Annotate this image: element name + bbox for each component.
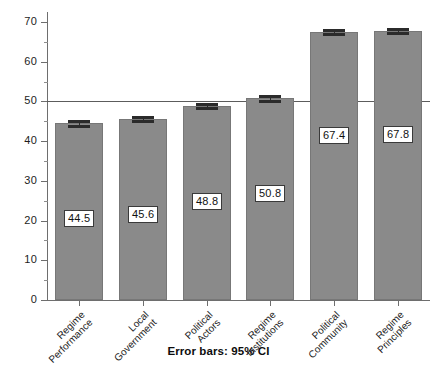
x-category-label-political-community: PoliticalCommunity [270, 309, 349, 370]
error-bar-cap-1-upper [132, 116, 154, 119]
x-tick-0 [79, 300, 80, 306]
error-bars-note: Error bars: 95% CI [0, 345, 437, 357]
value-label-5: 67.8 [383, 126, 413, 143]
value-label-3: 50.8 [255, 185, 285, 202]
y-tick-label-60: 60 [3, 56, 37, 67]
x-category-label-political-actors: PoliticalActors [143, 309, 222, 370]
error-bar-cap-2-upper [196, 103, 218, 106]
error-bar-cap-1-lower [132, 120, 154, 123]
x-tick-1 [143, 300, 144, 306]
y-tick-label-70: 70 [3, 16, 37, 27]
y-minor-tick-15 [44, 240, 48, 241]
y-tick-30 [41, 181, 48, 182]
y-minor-tick-5 [44, 280, 48, 281]
value-label-0: 44.5 [64, 210, 94, 227]
y-tick-label-50: 50 [3, 95, 37, 106]
category-label-line2: Actors [151, 317, 222, 370]
y-minor-tick-65 [44, 42, 48, 43]
y-tick-20 [41, 221, 48, 222]
y-axis-line [47, 12, 48, 301]
bar-political-community [310, 32, 358, 300]
category-label-line2: Performance [23, 317, 94, 370]
category-label-line2: Government [87, 317, 158, 370]
error-bar-cap-4-lower [323, 33, 345, 36]
x-tick-4 [334, 300, 335, 306]
error-bar-cap-3-lower [259, 100, 281, 103]
y-minor-tick-25 [44, 201, 48, 202]
y-tick-label-0: 0 [3, 294, 37, 305]
y-tick-40 [41, 141, 48, 142]
x-tick-3 [270, 300, 271, 306]
x-category-label-regime-performance: RegimePerformance [15, 309, 94, 370]
x-tick-2 [207, 300, 208, 306]
error-bar-cap-3-upper [259, 95, 281, 98]
error-bar-cap-0-upper [68, 120, 90, 123]
y-minor-tick-55 [44, 82, 48, 83]
x-category-label-regime-principles: RegimePrinciples [334, 309, 413, 370]
y-tick-60 [41, 62, 48, 63]
y-tick-label-10: 10 [3, 254, 37, 265]
value-label-1: 45.6 [128, 206, 158, 223]
y-minor-tick-35 [44, 161, 48, 162]
y-tick-10 [41, 260, 48, 261]
error-bar-cap-4-upper [323, 29, 345, 32]
bar-chart: 010203040506070 44.545.648.850.867.467.8… [0, 0, 437, 370]
x-category-label-local-government: LocalGovernment [79, 309, 158, 370]
category-label-line2: Institutions [214, 317, 285, 370]
y-tick-0 [41, 300, 48, 301]
x-category-label-regime-institutions: RegimeInstitutions [206, 309, 285, 370]
y-minor-tick-45 [44, 121, 48, 122]
error-bar-cap-5-lower [387, 32, 409, 35]
y-tick-label-40: 40 [3, 135, 37, 146]
error-bar-cap-5-upper [387, 28, 409, 31]
bar-regime-principles [374, 31, 422, 300]
x-axis-line [41, 300, 430, 301]
y-tick-label-30: 30 [3, 175, 37, 186]
value-label-4: 67.4 [319, 127, 349, 144]
y-tick-label-20: 20 [3, 215, 37, 226]
x-tick-5 [398, 300, 399, 306]
category-label-line2: Community [278, 317, 349, 370]
category-label-line2: Principles [342, 317, 413, 370]
error-bar-cap-0-lower [68, 125, 90, 128]
value-label-2: 48.8 [192, 193, 222, 210]
error-bar-cap-2-lower [196, 107, 218, 110]
reference-line [47, 101, 430, 102]
y-tick-70 [41, 22, 48, 23]
